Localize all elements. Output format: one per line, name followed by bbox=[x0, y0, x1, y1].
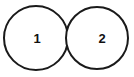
diagram-canvas: 1 2 bbox=[0, 0, 134, 77]
circle-node-2[interactable] bbox=[66, 7, 128, 69]
circle-node-2-label: 2 bbox=[98, 31, 105, 46]
two-circle-diagram: 1 2 bbox=[0, 0, 134, 77]
circle-node-1-label: 1 bbox=[33, 31, 40, 46]
